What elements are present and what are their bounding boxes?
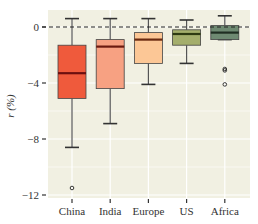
y-tick-label: −4 (27, 77, 39, 89)
x-tick-label-europe: Europe (133, 205, 165, 217)
y-tick-label: −12 (22, 189, 39, 201)
y-axis-title: r (%) (4, 94, 17, 118)
x-tick-label-africa: Africa (211, 205, 239, 217)
y-tick-label: −8 (27, 133, 39, 145)
box-plot-chart: 0−4−8−12 ChinaIndiaEuropeUSAfrica r (%) (0, 0, 258, 224)
x-tick-label-china: China (59, 205, 85, 217)
x-axis: ChinaIndiaEuropeUSAfrica (59, 199, 239, 217)
x-tick-label-india: India (99, 205, 122, 217)
y-axis: 0−4−8−12 (22, 21, 46, 201)
x-tick-label-us: US (180, 205, 194, 217)
y-tick-label: 0 (34, 21, 40, 33)
